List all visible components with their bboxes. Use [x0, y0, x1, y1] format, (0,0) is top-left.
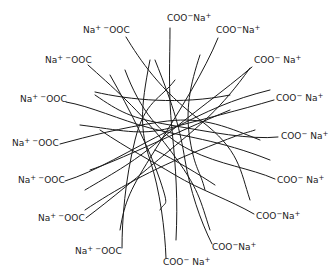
label-right-8: COO−Na+	[212, 242, 256, 252]
carboxylate-aggregate-diagram: Na+ −OOC Na+ −OOC Na+ −OOC Na+ −OOC Na+ …	[0, 0, 334, 276]
chain-right-9	[143, 60, 167, 258]
label-right-6: COO− Na+	[277, 175, 324, 185]
label-right-4: COO− Na+	[276, 93, 323, 103]
label-right-2: COO−Na+	[216, 25, 260, 35]
label-left-6: Na+ −OOC	[38, 213, 85, 223]
label-right-9: COO− Na+	[163, 257, 210, 267]
label-right-3: COO− Na+	[254, 55, 301, 65]
label-right-5: COO− Na+	[281, 131, 328, 141]
label-left-3: Na+ −OOC	[20, 94, 67, 104]
label-left-2: Na+ −OOC	[45, 55, 92, 65]
label-left-5: Na+ −OOC	[18, 175, 65, 185]
label-left-7: Na+ −OOC	[75, 246, 122, 256]
label-left-4: Na+ −OOC	[12, 138, 59, 148]
chain-right-4	[80, 100, 274, 132]
label-left-1: Na+ −OOC	[83, 25, 130, 35]
chain-right-2	[120, 38, 218, 230]
chain-extra-4	[85, 130, 255, 210]
label-right-7: COO−Na+	[256, 211, 300, 221]
label-right-1: COO−Na+	[167, 13, 211, 23]
